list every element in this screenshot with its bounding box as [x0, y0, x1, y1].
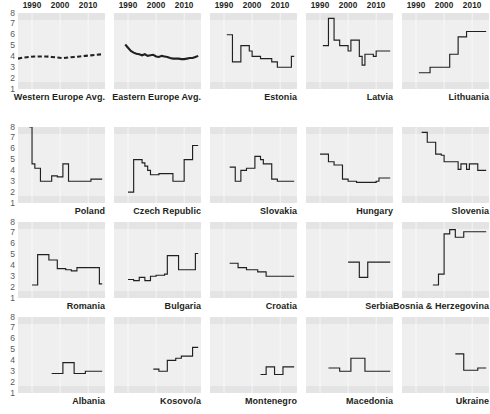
y-axis-tick-label: 6	[10, 30, 15, 39]
y-axis-tick-label: 4	[10, 52, 15, 61]
x-axis-tick-label: 2000	[243, 1, 262, 10]
series-line	[433, 230, 486, 285]
series-line	[125, 44, 198, 59]
x-axis-year-strip: 199020002010	[114, 0, 201, 13]
panel-title: Macedonia	[306, 395, 393, 407]
y-axis-tick-label: 7	[10, 19, 15, 28]
panel-title: Latvia	[306, 91, 393, 103]
series-line	[128, 253, 198, 280]
panel-title: Bulgaria	[114, 300, 201, 312]
panel-macedonia: Macedonia	[306, 317, 393, 393]
series-line	[230, 263, 295, 276]
panel-title: Montenegro	[210, 395, 297, 407]
y-axis: 87654321	[0, 127, 17, 203]
x-axis-tick-label: 1990	[407, 1, 426, 10]
panel-eastern-europe-avg: Eastern Europe Avg.	[114, 13, 201, 89]
y-axis-tick-label: 3	[10, 272, 15, 281]
x-axis-year-strip: 199020002010	[306, 0, 393, 13]
panel-slovakia: Slovakia	[210, 127, 297, 203]
panel-title: Poland	[18, 205, 105, 217]
x-axis-tick-label: 2010	[175, 1, 194, 10]
y-axis: 87654321	[0, 222, 17, 298]
series-line	[320, 154, 390, 182]
series-line	[230, 156, 295, 181]
x-axis-tick-label: 2010	[271, 1, 290, 10]
series-line	[227, 35, 294, 68]
y-axis-tick-label: 6	[10, 144, 15, 153]
y-axis-tick-label: 2	[10, 188, 15, 197]
x-axis-tick-label: 2000	[339, 1, 358, 10]
series-line	[328, 358, 390, 371]
panel-serbia: Serbia	[306, 222, 393, 298]
plot-area	[402, 222, 489, 298]
y-axis-tick-label: 7	[10, 133, 15, 142]
panel-title: Western Europe Avg.	[0, 91, 105, 103]
x-axis-year-strip: 199020002010	[402, 0, 489, 13]
series-line	[153, 347, 198, 371]
panel-row: 87654321Western Europe Avg.Eastern Europ…	[0, 13, 490, 108]
plot-area	[306, 222, 393, 298]
plot-area	[18, 222, 105, 298]
panel-title: Czech Republic	[114, 205, 201, 217]
series-line	[419, 31, 486, 72]
y-axis-tick-label: 1	[10, 389, 15, 398]
x-axis-year-strip: 199020002010	[18, 0, 105, 13]
panel-title: Croatia	[210, 300, 297, 312]
series-line	[422, 132, 487, 170]
series-line	[128, 145, 198, 192]
plot-area	[114, 222, 201, 298]
panel-lithuania: Lithuania	[402, 13, 489, 89]
x-axis-tick-label: 2000	[435, 1, 454, 10]
y-axis: 87654321	[0, 13, 17, 89]
series-line	[32, 255, 102, 285]
y-axis-tick-label: 3	[10, 177, 15, 186]
plot-area	[210, 222, 297, 298]
plot-area	[210, 317, 297, 393]
y-axis-tick-label: 5	[10, 41, 15, 50]
panel-title: Kosovo/a	[114, 395, 201, 407]
plot-area	[114, 13, 201, 89]
panel-row: 87654321AlbaniaKosovo/aMontenegroMacedon…	[0, 317, 490, 412]
y-axis-tick-label: 6	[10, 239, 15, 248]
y-axis-tick-label: 8	[10, 123, 15, 132]
plot-area	[402, 13, 489, 89]
plot-area	[306, 127, 393, 203]
y-axis-tick-label: 4	[10, 166, 15, 175]
panel-bulgaria: Bulgaria	[114, 222, 201, 298]
panel-title: Albania	[18, 395, 105, 407]
plot-area	[402, 127, 489, 203]
series-line	[29, 127, 102, 181]
panel-title: Slovenia	[402, 205, 489, 217]
x-axis-tick-label: 1990	[119, 1, 138, 10]
plot-area	[402, 317, 489, 393]
panel-title: Lithuania	[402, 91, 489, 103]
series-line	[52, 363, 103, 374]
panel-bosnia-herzegovina: Bosnia & Herzegovina	[402, 222, 489, 298]
y-axis-tick-label: 3	[10, 367, 15, 376]
series-line	[455, 354, 486, 370]
y-axis-tick-label: 5	[10, 155, 15, 164]
panel-slovenia: Slovenia	[402, 127, 489, 203]
panel-montenegro: Montenegro	[210, 317, 297, 393]
panel-ukraine: Ukraine	[402, 317, 489, 393]
x-axis-tick-label: 2000	[147, 1, 166, 10]
y-axis-tick-label: 8	[10, 218, 15, 227]
plot-area	[306, 13, 393, 89]
panel-western-europe-avg: Western Europe Avg.	[18, 13, 105, 89]
panel-romania: Romania	[18, 222, 105, 298]
x-axis-tick-label: 1990	[311, 1, 330, 10]
y-axis-tick-label: 4	[10, 261, 15, 270]
x-axis-year-strip: 199020002010	[210, 0, 297, 13]
y-axis-tick-label: 7	[10, 228, 15, 237]
y-axis-tick-label: 7	[10, 323, 15, 332]
panel-row: 87654321RomaniaBulgariaCroatiaSerbiaBosn…	[0, 222, 490, 317]
plot-area	[18, 317, 105, 393]
y-axis-tick-label: 1	[10, 199, 15, 208]
panel-croatia: Croatia	[210, 222, 297, 298]
y-axis-tick-label: 8	[10, 313, 15, 322]
plot-area	[210, 13, 297, 89]
x-axis-tick-label: 1990	[23, 1, 42, 10]
plot-area	[114, 317, 201, 393]
panel-hungary: Hungary	[306, 127, 393, 203]
plot-area	[18, 127, 105, 203]
